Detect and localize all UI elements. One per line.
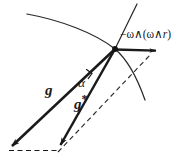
vector-diagram-figure: −ω∧(ω∧r) g g* α: [0, 0, 188, 158]
centrifugal-vector-arrow: [115, 50, 156, 51]
centrifugal-label: −ω∧(ω∧r): [120, 29, 171, 41]
radial-line: [115, 4, 137, 49]
effective-gravity-vector-arrow: [61, 49, 116, 145]
effective-gravity-label: g*: [74, 93, 88, 112]
effective-gravity-label-base: g: [74, 96, 82, 112]
gravity-label: g: [45, 83, 53, 98]
diagram-canvas: [0, 0, 188, 158]
angle-alpha-label: α: [78, 76, 85, 90]
gravity-vector-arrow: [12, 49, 115, 146]
effective-gravity-label-star: *: [82, 92, 88, 106]
vertex-point: [112, 46, 118, 52]
